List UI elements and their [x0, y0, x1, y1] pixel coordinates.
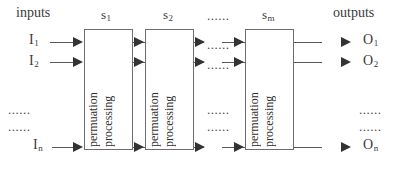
stage-box-sm-text-processing: processing [263, 30, 383, 149]
arrow-head-sm-to-out1 [341, 37, 351, 47]
arrow-line-sm-to-outn [294, 147, 322, 148]
stage-box-sm[interactable]: permuation processing [245, 29, 294, 150]
inputs-header-label: inputs [16, 6, 50, 20]
input-label-i1-sub: 1 [34, 38, 39, 48]
stage-label-s2-sub: 2 [169, 13, 174, 23]
arrow-head-gap-to-sm-row2 [234, 57, 244, 67]
input-ellipsis-row1: ...... [8, 103, 31, 116]
arrow-head-s1-to-s2-row1 [134, 37, 144, 47]
gap-ellipsis-row4: ...... [207, 120, 230, 133]
input-ellipsis-row2: ...... [8, 120, 31, 133]
arrow-head-s2-out-row1 [195, 37, 205, 47]
input-label-i1: I1 [29, 33, 39, 48]
arrow-line-sm-to-out1 [294, 42, 322, 43]
input-label-in: In [33, 138, 43, 153]
arrow-head-s1-to-s2-row2 [134, 57, 144, 67]
input-label-in-sub: n [38, 143, 43, 153]
input-label-i2-sub: 2 [34, 59, 39, 69]
arrow-head-sm-to-outn [341, 142, 351, 152]
gap-ellipsis-row1: ...... [207, 38, 230, 51]
block-diagram: inputs s1 s2 ...... sm outputs I1 I2 In … [0, 0, 408, 178]
arrow-head-inn-to-s1 [73, 142, 83, 152]
stage-label-s1-sub: 1 [107, 13, 112, 23]
arrow-head-s2-out-row2 [195, 57, 205, 67]
arrow-line-in2-to-s1 [50, 62, 74, 63]
stage-label-s2: s2 [163, 7, 173, 23]
arrow-head-s2-out-rowN [195, 142, 205, 152]
gap-ellipsis-row3: ...... [207, 103, 230, 116]
arrow-head-in2-to-s1 [73, 57, 83, 67]
input-label-in-base: I [33, 137, 38, 152]
stage-box-s1[interactable]: permuation processing [84, 29, 133, 150]
arrow-head-gap-to-sm-rowN [234, 142, 244, 152]
arrow-line-sm-to-out2 [294, 62, 322, 63]
arrow-head-in1-to-s1 [73, 37, 83, 47]
outputs-header-label: outputs [333, 6, 374, 20]
input-label-i1-base: I [29, 32, 34, 47]
stage-gap-ellipsis-top: ...... [207, 9, 230, 22]
stage-label-sm: sm [262, 7, 275, 23]
stage-label-s2-base: s [163, 7, 168, 22]
stage-label-s1-base: s [101, 7, 106, 22]
input-label-i2: I2 [29, 54, 39, 69]
stage-label-sm-base: s [262, 7, 267, 22]
input-label-i2-base: I [29, 53, 34, 68]
arrow-head-gap-to-sm-row1 [234, 37, 244, 47]
arrow-head-s1-to-s2-rowN [134, 142, 144, 152]
stage-label-s1: s1 [101, 7, 111, 23]
stage-label-sm-sub: m [268, 13, 275, 23]
arrow-line-in1-to-s1 [50, 42, 74, 43]
gap-ellipsis-row2: ...... [207, 58, 230, 71]
stage-box-s2[interactable]: permuation processing [145, 29, 194, 150]
arrow-head-sm-to-out2 [341, 57, 351, 67]
